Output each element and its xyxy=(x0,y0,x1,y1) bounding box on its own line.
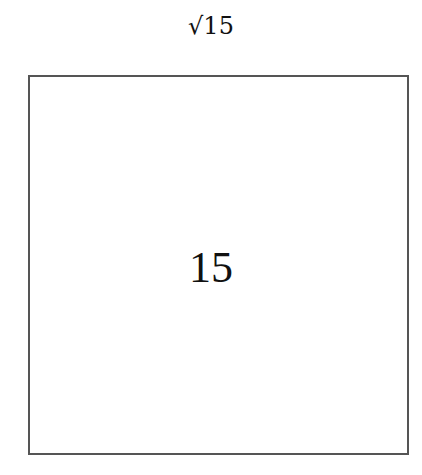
side-length-label: √15 xyxy=(0,14,422,38)
area-label: 15 xyxy=(0,246,422,290)
